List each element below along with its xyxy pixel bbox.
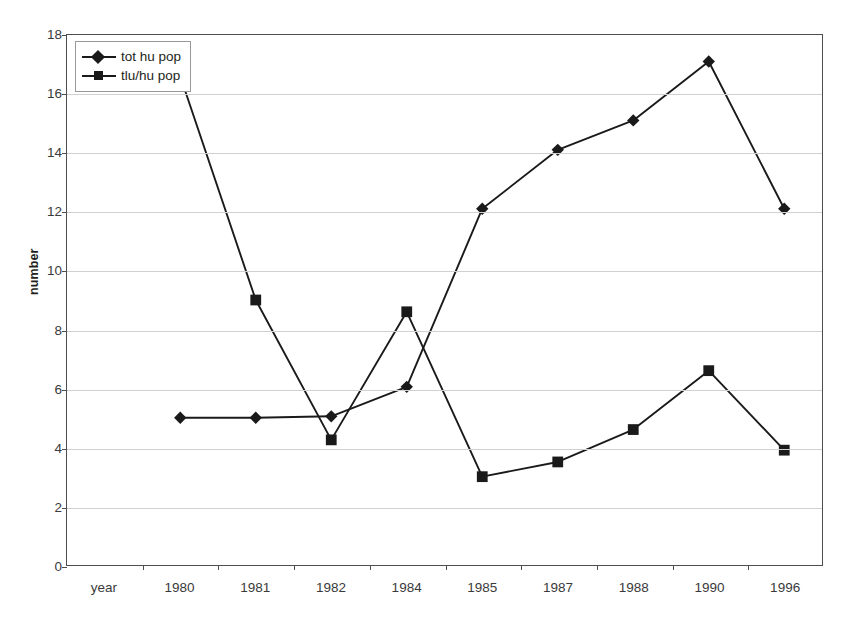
y-tick-mark xyxy=(62,35,67,36)
data-point-square xyxy=(401,306,412,317)
x-axis-title: year xyxy=(91,580,117,595)
legend-item-tlu-hu-pop: tlu/hu pop xyxy=(82,66,181,85)
gridline xyxy=(67,390,822,391)
gridline xyxy=(67,212,822,213)
diamond-marker-icon xyxy=(82,49,116,65)
y-tick-mark xyxy=(62,508,67,509)
data-point-diamond xyxy=(401,381,413,393)
x-tick-mark xyxy=(218,565,219,570)
gridline xyxy=(67,94,822,95)
legend-item-tot-hu-pop: tot hu pop xyxy=(82,47,181,66)
data-point-diamond xyxy=(250,412,262,424)
chart-legend: tot hu pop tlu/hu pop xyxy=(75,41,191,92)
x-tick-label: 1996 xyxy=(770,580,800,595)
x-tick-mark xyxy=(748,565,749,570)
data-point-square xyxy=(628,424,639,435)
gridline xyxy=(67,331,822,332)
x-tick-mark xyxy=(294,565,295,570)
x-tick-label: 1980 xyxy=(165,580,195,595)
y-tick-mark xyxy=(62,390,67,391)
x-tick-mark xyxy=(673,565,674,570)
x-tick-label: 1988 xyxy=(619,580,649,595)
data-point-square xyxy=(250,295,261,306)
x-tick-label: 1987 xyxy=(543,580,573,595)
legend-label-series-1: tot hu pop xyxy=(116,49,181,64)
x-tick-label: 1984 xyxy=(392,580,422,595)
x-tick-label: 1982 xyxy=(316,580,346,595)
legend-label-series-2: tlu/hu pop xyxy=(116,68,180,83)
y-tick-mark xyxy=(62,153,67,154)
x-tick-label: 1990 xyxy=(694,580,724,595)
plot-area: tot hu pop tlu/hu pop xyxy=(66,34,823,566)
x-tick-label: 1981 xyxy=(240,580,270,595)
y-tick-mark xyxy=(62,331,67,332)
data-point-square xyxy=(779,445,790,456)
x-tick-mark xyxy=(597,565,598,570)
y-tick-mark xyxy=(62,94,67,95)
data-point-square xyxy=(552,457,563,468)
data-point-square xyxy=(326,434,337,445)
y-tick-mark xyxy=(62,271,67,272)
x-tick-mark xyxy=(143,565,144,570)
gridline xyxy=(67,271,822,272)
y-tick-mark xyxy=(62,449,67,450)
data-point-square xyxy=(477,471,488,482)
data-point-square xyxy=(703,365,714,376)
gridline xyxy=(67,449,822,450)
square-marker-icon xyxy=(82,68,116,84)
series-line-1 xyxy=(180,62,784,418)
gridline xyxy=(67,508,822,509)
data-point-diamond xyxy=(325,410,337,422)
x-tick-mark xyxy=(446,565,447,570)
x-tick-mark xyxy=(521,565,522,570)
x-tick-mark xyxy=(370,565,371,570)
x-tick-label: 1985 xyxy=(467,580,497,595)
y-tick-mark xyxy=(62,212,67,213)
y-tick-mark xyxy=(62,567,67,568)
data-point-diamond xyxy=(174,412,186,424)
series-layer xyxy=(67,35,822,565)
chart-figure: number 024681012141618 year1980198119821… xyxy=(0,0,854,629)
gridline xyxy=(67,153,822,154)
